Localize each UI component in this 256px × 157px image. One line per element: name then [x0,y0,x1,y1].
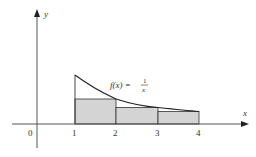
y-axis-label: y [43,9,48,19]
rectangle-1 [75,99,116,124]
tick-label-2: 2 [113,128,118,138]
tick-label-1: 1 [72,128,77,138]
riemann-sum-diagram: y x 0 1 2 3 4 f(x) = 1 x [0,0,256,157]
rectangles [75,99,199,124]
rectangle-3 [158,112,199,125]
tick-label-3: 3 [155,128,160,138]
x-axis-label: x [242,108,247,118]
x-axis-arrow-icon [241,121,249,127]
tick-label-4: 4 [196,128,201,138]
origin-label: 0 [28,128,33,138]
function-label: f(x) = [110,80,131,90]
y-axis-arrow-icon [34,9,40,17]
rectangle-2 [116,108,158,125]
fraction-denominator: x [141,86,146,94]
fraction-numerator: 1 [143,77,147,85]
